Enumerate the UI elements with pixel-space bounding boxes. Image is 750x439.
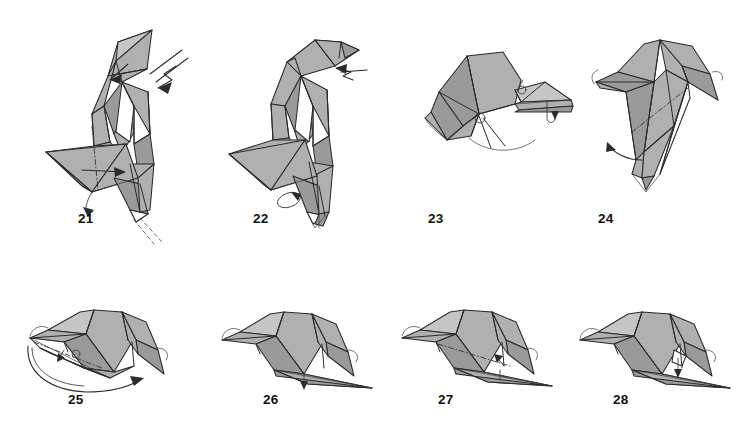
figure-21-drawing [30, 14, 210, 234]
figure-21-paper [46, 30, 154, 222]
figure-panel-27 [390, 296, 570, 396]
figure-21-zigzag-crimp-arrow [150, 50, 188, 94]
figure-25-paper [30, 310, 164, 378]
step-label-22: 22 [253, 212, 268, 226]
figure-22-loop-arrow [275, 189, 302, 210]
figure-panel-25 [18, 296, 198, 396]
step-label-28: 28 [613, 393, 628, 407]
step-label-24: 24 [598, 212, 613, 226]
figure-26-drawing [212, 296, 392, 396]
step-label-27: 27 [438, 393, 453, 407]
figure-panel-26 [212, 296, 392, 396]
diagram-sheet: 21 [0, 0, 750, 439]
step-label-23: 23 [428, 212, 443, 226]
figure-22-push-arrow [335, 64, 367, 80]
figure-22-drawing [215, 14, 395, 234]
figure-25-drawing [18, 296, 198, 396]
figure-28-drawing [566, 296, 746, 396]
figure-panel-23 [395, 30, 580, 200]
figure-panel-22 [215, 14, 395, 234]
figure-24-drawing [570, 26, 745, 206]
step-label-21: 21 [78, 212, 93, 226]
figure-23-drawing [395, 30, 580, 200]
figure-panel-24 [570, 26, 745, 206]
figure-panel-21 [30, 14, 210, 234]
step-label-25: 25 [68, 393, 83, 407]
figure-27-drawing [390, 296, 570, 396]
step-label-26: 26 [263, 393, 278, 407]
figure-panel-28 [566, 296, 746, 396]
